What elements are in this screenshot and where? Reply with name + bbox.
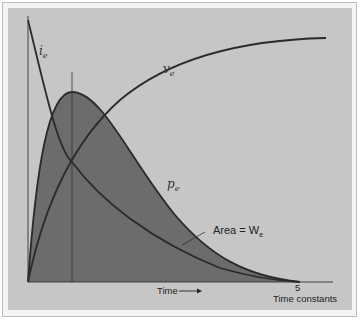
ie-label: ie (39, 44, 48, 60)
time-arrow-head-icon (197, 289, 202, 294)
time-constants-label: Time constants (273, 293, 337, 304)
area-label: Area = We (213, 224, 263, 238)
tick-5-label: 5 (295, 282, 300, 293)
time-label: Time (157, 285, 178, 296)
chart-svg: ie ve pe Area = We Time 5 Time constants (0, 0, 361, 321)
pe-area (28, 92, 300, 282)
ve-label: ve (163, 62, 175, 78)
pe-label: pe (167, 177, 180, 193)
